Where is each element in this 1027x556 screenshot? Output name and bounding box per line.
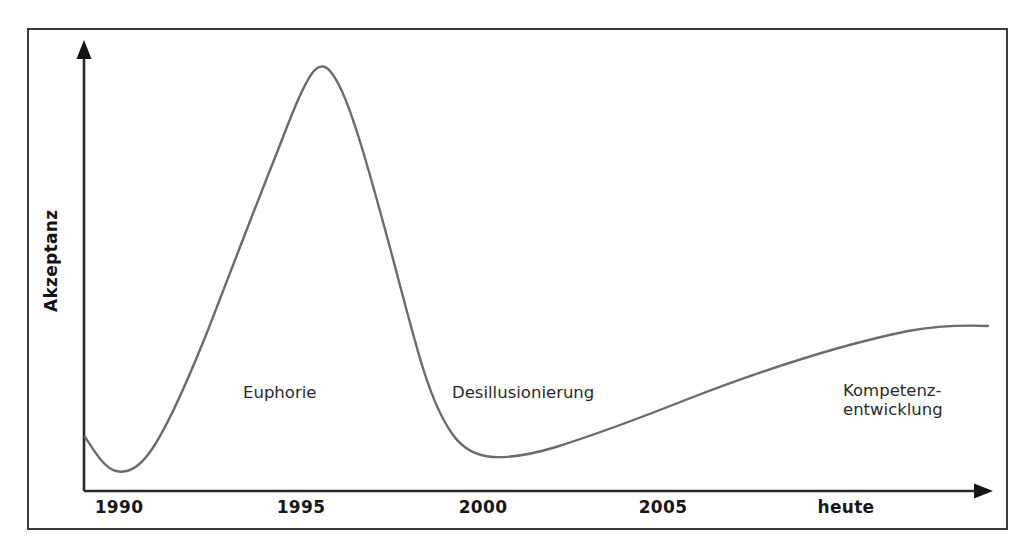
chart-plot-area — [0, 0, 1027, 556]
x-tick-label-1990: 1990 — [95, 497, 144, 517]
y-axis-arrow-icon — [77, 40, 92, 59]
x-tick-label-2000: 2000 — [459, 497, 508, 517]
x-axis-arrow-icon — [974, 484, 993, 499]
x-tick-label-1995: 1995 — [277, 497, 326, 517]
annotation-kompetenzentwicklung-line2: entwicklung — [843, 400, 943, 419]
annotation-desillusionierung: Desillusionierung — [452, 383, 594, 402]
annotation-kompetenzentwicklung-line1: Kompetenz- — [843, 381, 941, 400]
annotation-euphorie: Euphorie — [243, 383, 316, 402]
x-tick-label-heute: heute — [818, 497, 875, 517]
chart-figure: Akzeptanz 1990 1995 2000 2005 heute Euph… — [0, 0, 1027, 556]
x-tick-label-2005: 2005 — [639, 497, 688, 517]
y-axis-label: Akzeptanz — [36, 186, 66, 336]
annotation-kompetenzentwicklung: Kompetenz- entwicklung — [843, 381, 943, 420]
